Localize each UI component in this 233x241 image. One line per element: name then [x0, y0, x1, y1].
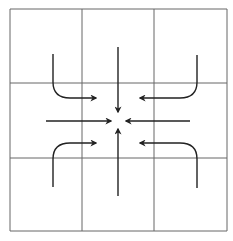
arrows	[46, 47, 197, 196]
grid	[10, 9, 227, 231]
curved-arrow-top-right-icon	[140, 55, 197, 98]
convergence-diagram	[0, 0, 233, 241]
curved-arrow-bottom-right-icon	[140, 143, 197, 188]
curved-arrow-bottom-left-icon	[53, 143, 96, 187]
curved-arrow-top-left-icon	[53, 54, 96, 98]
